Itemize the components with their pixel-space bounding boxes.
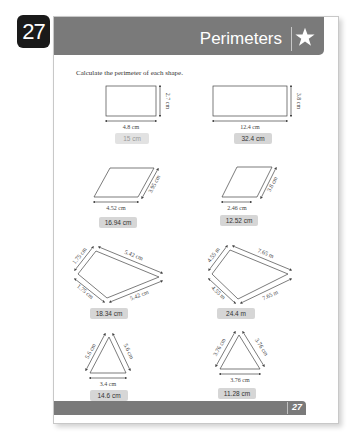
answer-box: 24.4 m <box>217 308 255 319</box>
svg-text:2.7 cm: 2.7 cm <box>165 93 171 110</box>
svg-text:5.6 cm: 5.6 cm <box>84 342 97 360</box>
svg-text:5.42 cm: 5.42 cm <box>129 289 149 302</box>
answer-box: 32.4 cm <box>234 133 272 144</box>
answer-box: 14.6 cm <box>90 390 128 401</box>
svg-text:3.76 cm: 3.76 cm <box>230 377 250 383</box>
worksheet-page: Perimeters Calculate the perimeter of ea… <box>53 16 339 424</box>
svg-text:2.46 cm: 2.46 cm <box>227 205 247 211</box>
svg-text:12.4 cm: 12.4 cm <box>240 124 260 130</box>
answer-box: 16.94 cm <box>99 217 137 228</box>
footer-band: 27 <box>54 401 306 415</box>
svg-text:3.76 cm: 3.76 cm <box>212 337 227 357</box>
svg-text:5.42 cm: 5.42 cm <box>124 249 144 262</box>
svg-text:3.8 cm: 3.8 cm <box>296 93 302 110</box>
answer-box: 11.28 cm <box>218 388 256 399</box>
answer-box: 18.34 cm <box>90 308 128 319</box>
chapter-badge: 27 <box>17 15 50 48</box>
svg-text:4.8 cm: 4.8 cm <box>123 124 140 130</box>
page-number: 27 <box>292 402 302 412</box>
svg-text:4.52 cm: 4.52 cm <box>106 205 126 211</box>
answer-box: 15 cm <box>115 133 149 144</box>
svg-text:4.55 m: 4.55 m <box>210 285 227 301</box>
svg-text:3.4 cm: 3.4 cm <box>100 381 117 387</box>
shapes-canvas: 4.8 cm 2.7 cm 12.4 cm 3.8 cm 4.52 cm 3.9… <box>54 17 338 423</box>
footer-divider <box>287 402 288 414</box>
svg-text:1.75 cm: 1.75 cm <box>71 246 88 265</box>
answer-box: 12.52 cm <box>220 215 258 226</box>
svg-text:4.55 m: 4.55 m <box>206 246 221 263</box>
svg-text:7.65 m: 7.65 m <box>261 289 279 302</box>
